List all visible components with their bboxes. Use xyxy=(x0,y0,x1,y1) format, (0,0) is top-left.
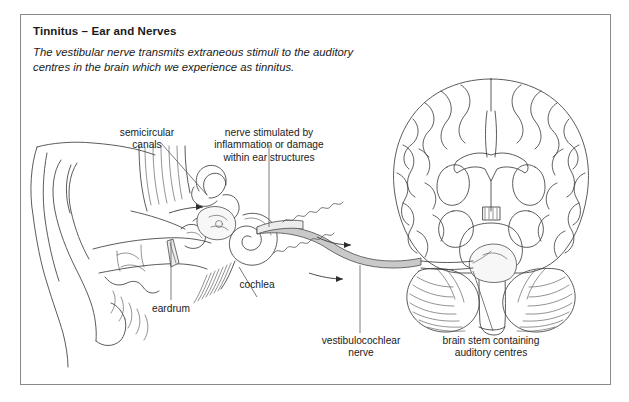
brain-coronal-section xyxy=(394,79,589,335)
label-vestibulocochlear-nerve: vestibulocochlear nerve xyxy=(303,335,419,360)
figure-page: Tinnitus – Ear and Nerves The vestibular… xyxy=(0,0,629,402)
label-brain-stem: brain stem containing auditory centres xyxy=(423,335,559,360)
label-eardrum: eardrum xyxy=(139,303,203,315)
ear-cross-section xyxy=(31,142,277,367)
label-nerve-stimulated: nerve stimulated by inflammation or dama… xyxy=(191,127,347,164)
figure-frame: Tinnitus – Ear and Nerves The vestibular… xyxy=(20,14,611,385)
cochlea-spiral xyxy=(229,213,277,265)
anatomy-illustration xyxy=(21,15,612,386)
label-cochlea: cochlea xyxy=(225,279,289,291)
label-semicircular-canals: semicircular canals xyxy=(99,127,195,152)
